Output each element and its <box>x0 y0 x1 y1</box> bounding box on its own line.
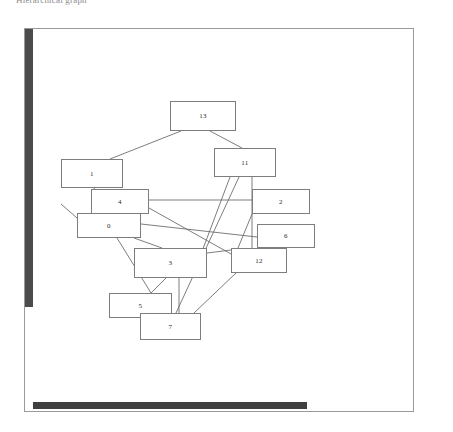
graph-node-label: 11 <box>241 159 248 167</box>
graph-node-label: 3 <box>169 259 173 267</box>
graph-node-12[interactable]: 12 <box>231 248 287 273</box>
graph-node-label: 4 <box>118 198 122 206</box>
graph-node-13[interactable]: 13 <box>170 101 236 131</box>
graph-node-label: 6 <box>284 232 288 240</box>
graph-node-11[interactable]: 11 <box>214 148 276 177</box>
graph-node-0[interactable]: 0 <box>77 213 141 238</box>
graph-node-3[interactable]: 3 <box>134 248 207 278</box>
graph-canvas: 13111420631257 <box>24 28 414 412</box>
graph-node-2[interactable]: 2 <box>252 189 310 214</box>
graph-node-7[interactable]: 7 <box>140 313 201 340</box>
graph-node-label: 7 <box>169 323 173 331</box>
graph-node-label: 1 <box>90 170 94 178</box>
graph-node-4[interactable]: 4 <box>91 189 149 214</box>
graph-node-label: 2 <box>279 198 283 206</box>
graph-node-1[interactable]: 1 <box>61 159 123 188</box>
figure-caption: Hierarchical graph <box>16 0 87 5</box>
graph-node-label: 5 <box>139 302 143 310</box>
graph-node-6[interactable]: 6 <box>257 224 315 248</box>
graph-node-label: 0 <box>107 222 111 230</box>
graph-node-label: 13 <box>199 112 207 120</box>
graph-node-label: 12 <box>255 257 263 265</box>
